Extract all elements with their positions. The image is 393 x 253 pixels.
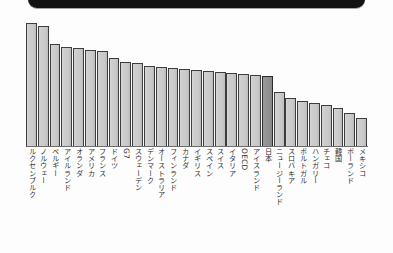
x-axis-label-text: ポルトガル [298, 148, 306, 253]
x-axis-label: チェコ [321, 148, 332, 251]
bar[interactable] [238, 74, 249, 146]
bar[interactable] [285, 98, 296, 146]
x-axis-label: ハンガリー [309, 148, 320, 251]
x-axis-label: OECD [238, 148, 249, 251]
bar-column [203, 22, 214, 146]
bar-column [156, 22, 167, 146]
bar-column [285, 22, 296, 146]
x-axis-label-text: ニュージーランド [275, 148, 283, 253]
x-axis-label: スロバキア [285, 148, 296, 251]
bar[interactable] [215, 72, 226, 146]
bar[interactable] [61, 47, 72, 146]
bar-column [144, 22, 155, 146]
x-axis-label-text: チェコ [322, 148, 330, 253]
x-axis-label: カナダ [179, 148, 190, 251]
x-axis-line [26, 146, 368, 147]
bar-column [344, 22, 355, 146]
bar-column [309, 22, 320, 146]
x-axis-label: 韓国 [333, 148, 344, 251]
bar[interactable] [109, 58, 120, 146]
x-axis-label: ドイツ [109, 148, 120, 251]
x-axis-label: フィンランド [168, 148, 179, 251]
x-axis-label: G7 [120, 148, 131, 251]
bar[interactable] [120, 62, 131, 146]
x-axis-label: イギリス [191, 148, 202, 251]
x-axis-label: ポーランド [344, 148, 355, 251]
x-axis-label-text: OECD [240, 148, 248, 253]
bar[interactable] [73, 48, 84, 146]
bar-column [191, 22, 202, 146]
x-axis-label-text: アメリカ [86, 148, 94, 253]
bar-column [132, 22, 143, 146]
bar[interactable] [132, 63, 143, 146]
bar-column [179, 22, 190, 146]
bar[interactable] [26, 23, 37, 146]
x-axis-label: オーストラリア [156, 148, 167, 251]
bar[interactable] [144, 66, 155, 146]
x-axis-label: ノルウェー [38, 148, 49, 251]
x-axis-label-text: ドイツ [110, 148, 118, 253]
x-axis-label-text: ベルギー [51, 148, 59, 253]
plot-area [26, 22, 368, 146]
bar[interactable] [191, 70, 202, 146]
bar[interactable] [333, 108, 344, 146]
bar-column [38, 22, 49, 146]
x-axis-label-text: オーストラリア [157, 148, 165, 253]
bar-column [109, 22, 120, 146]
x-axis-label: ルクセンブルク [26, 148, 37, 251]
x-axis-label-text: フランス [98, 148, 106, 253]
bar-highlighted[interactable] [262, 76, 273, 146]
x-axis-label-text: ノルウェー [39, 148, 47, 253]
bar[interactable] [226, 73, 237, 146]
x-axis-label-text: ハンガリー [310, 148, 318, 253]
bar[interactable] [156, 67, 167, 146]
bar-column [73, 22, 84, 146]
x-axis-label-text: アイスランド [251, 148, 259, 253]
bar-column [50, 22, 61, 146]
x-axis-label-text: スロバキア [287, 148, 295, 253]
title-banner [28, 0, 365, 8]
bar[interactable] [274, 92, 285, 146]
x-axis-label: アメリカ [85, 148, 96, 251]
bar[interactable] [97, 51, 108, 146]
bar-column [262, 22, 273, 146]
bar[interactable] [297, 101, 308, 146]
bar[interactable] [85, 50, 96, 146]
bar[interactable] [168, 68, 179, 146]
x-axis-label-text: スイス [216, 148, 224, 253]
bar-column [321, 22, 332, 146]
x-axis-label-text: カナダ [181, 148, 189, 253]
x-axis-label: デンマーク [144, 148, 155, 251]
bar[interactable] [250, 75, 261, 146]
x-axis-label: スイス [215, 148, 226, 251]
bar-column [97, 22, 108, 146]
bar[interactable] [344, 113, 355, 146]
x-axis-label-text: G7 [122, 148, 130, 253]
bar-column [120, 22, 131, 146]
x-axis-label-text: イタリア [228, 148, 236, 253]
x-axis-label: ベルギー [50, 148, 61, 251]
x-axis-label-text: オランダ [74, 148, 82, 253]
bar-chart-figure: ルクセンブルクノルウェーベルギーアイルランドオランダアメリカフランスドイツG7ス… [0, 0, 393, 253]
x-axis-label-text: ルクセンブルク [27, 148, 35, 253]
bar[interactable] [356, 118, 367, 146]
bar[interactable] [203, 71, 214, 146]
x-axis-label-text: スウェーデン [133, 148, 141, 253]
bar[interactable] [321, 105, 332, 146]
x-axis-label: ポルトガル [297, 148, 308, 251]
bar[interactable] [38, 26, 49, 146]
x-axis-label: スウェーデン [132, 148, 143, 251]
bar-column [297, 22, 308, 146]
bar-column [356, 22, 367, 146]
bar[interactable] [179, 69, 190, 146]
x-axis-label: アイスランド [250, 148, 261, 251]
x-axis-label-text: 日本 [263, 148, 271, 253]
bar[interactable] [309, 103, 320, 146]
x-axis-label-text: アイルランド [63, 148, 71, 253]
bar-column [168, 22, 179, 146]
bar[interactable] [50, 44, 61, 146]
x-axis-labels: ルクセンブルクノルウェーベルギーアイルランドオランダアメリカフランスドイツG7ス… [26, 148, 368, 251]
x-axis-label: ニュージーランド [274, 148, 285, 251]
bar-column [274, 22, 285, 146]
x-axis-label-text: メキシコ [357, 148, 365, 253]
